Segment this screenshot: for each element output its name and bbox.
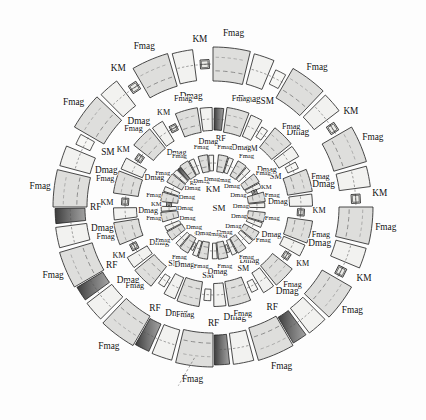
element-label-fmag: Fmag <box>30 181 52 191</box>
element-label-fmag: Fmag <box>342 305 364 315</box>
element-label-km: KM <box>343 106 358 116</box>
element-label-fmag: Fmag <box>234 309 252 318</box>
element-label-km: KM <box>313 206 326 215</box>
element-label-fmag: Fmag <box>96 174 114 183</box>
element-label-fmag: Fmag <box>63 97 85 107</box>
element-label-rf: RF <box>106 260 117 270</box>
element-label-fmag: Fmag <box>172 152 188 159</box>
element-label-rf: RF <box>267 302 278 312</box>
element-label-km: KM <box>372 188 387 198</box>
element-label-dmag: Dmag <box>180 214 197 221</box>
element-label-fmag: Fmag <box>311 172 329 181</box>
element-label-km: KM <box>261 183 272 190</box>
element-label-fmag: Fmag <box>96 232 114 241</box>
element-label-fmag: Fmag <box>265 214 281 221</box>
element-label-rf: RF <box>208 318 219 328</box>
element-label-km: KM <box>117 145 130 154</box>
lattice-figure: SMFmagDmagKMFmagDmagKMFmagDmagKMFmagDmag… <box>0 0 426 420</box>
element-label-fmag: Fmag <box>146 214 162 221</box>
element-label-fmag: Fmag <box>256 169 272 176</box>
element-label-fmag: Fmag <box>155 169 171 176</box>
element-label-km: KM <box>151 200 162 207</box>
element-label-sm: SM <box>261 96 274 106</box>
center-label-km: KM <box>206 184 221 194</box>
element-label-fmag: Fmag <box>98 341 120 351</box>
element-label-fmag: Fmag <box>217 143 233 150</box>
element-label-fmag: Fmag <box>375 222 397 232</box>
element-label-fmag: Fmag <box>176 310 194 319</box>
element-label-fmag: Fmag <box>312 230 330 239</box>
element-label-dmag: Dmag <box>224 182 241 189</box>
element-label-fmag: Fmag <box>182 374 204 384</box>
element-label-dmag: Dmag <box>204 175 221 182</box>
element-label-dmag: Dmag <box>185 184 202 191</box>
element-label-fmag: Fmag <box>362 132 384 142</box>
element-label-km: KM <box>100 198 113 207</box>
element-label-dmag: Dmag <box>230 191 247 198</box>
element-label-fmag: Fmag <box>239 152 255 159</box>
element-label-fmag: Fmag <box>134 41 156 51</box>
element-label-fmag: Fmag <box>232 94 250 103</box>
element-label-fmag: Fmag <box>265 191 281 198</box>
element-label-dmag: Dmag <box>268 197 288 206</box>
element-label-dmag: Dmag <box>233 202 250 209</box>
element-label-dmag: Dmag <box>231 212 248 219</box>
element-label-km: KM <box>157 108 170 117</box>
element-label-sm: SM <box>101 147 114 157</box>
element-label-fmag: Fmag <box>223 28 245 38</box>
element-label-fmag: Fmag <box>283 280 301 289</box>
element-label-km: KM <box>192 34 207 44</box>
element-label-fmag: Fmag <box>217 262 233 269</box>
element-label-fmag: Fmag <box>256 236 272 243</box>
element-label-rf: RF <box>149 303 160 313</box>
element-label-sm: SM <box>237 264 249 273</box>
element-label-dmag: Dmag <box>186 223 203 230</box>
element-label-km: KM <box>357 273 372 283</box>
element-label-km: KM <box>111 63 126 73</box>
element-label-km: KM <box>112 251 125 260</box>
center-label-sm: SM <box>212 203 225 213</box>
element-label-fmag: Fmag <box>282 122 300 131</box>
element-label-fmag: Fmag <box>126 281 144 290</box>
lattice-svg: SMFmagDmagKMFmagDmagKMFmagDmagKMFmagDmag… <box>0 0 426 420</box>
element-label-fmag: Fmag <box>271 361 293 371</box>
element-label-fmag: Fmag <box>307 62 329 72</box>
element-label-fmag: Fmag <box>174 94 192 103</box>
element-label-fmag: Fmag <box>124 124 142 133</box>
element-label-dmag: Dmag <box>175 260 195 269</box>
element-label-dmag: Dmag <box>179 193 196 200</box>
element-label-fmag: Fmag <box>194 143 210 150</box>
element-label-fmag: Fmag <box>43 270 65 280</box>
element-label-fmag: Fmag <box>239 253 255 260</box>
element-label-dmag: Dmag <box>308 238 331 248</box>
element-label-dmag: Dmag <box>232 143 252 152</box>
element-label-fmag: Fmag <box>172 253 188 260</box>
element-label-fmag: Fmag <box>194 262 210 269</box>
element-label-fmag: Fmag <box>146 191 162 198</box>
element-label-km: KM <box>296 259 309 268</box>
element-label-dmag: Dmag <box>177 204 194 211</box>
element-label-fmag: Fmag <box>155 236 171 243</box>
